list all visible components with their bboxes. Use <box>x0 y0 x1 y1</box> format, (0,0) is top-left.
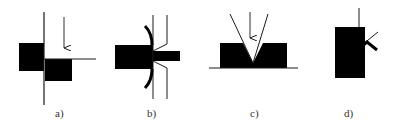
lower-flange <box>145 69 152 88</box>
main-block <box>115 45 153 69</box>
tall-block <box>335 27 365 78</box>
panel-d <box>335 8 378 78</box>
panel-a-label: a) <box>55 107 64 119</box>
panel-b <box>115 15 180 99</box>
notched-block <box>220 43 287 68</box>
right-vertical-line-lower <box>153 61 167 99</box>
panel-c <box>209 12 298 68</box>
panel-d-label: d) <box>344 107 353 119</box>
upper-flange <box>145 26 152 45</box>
panel-c-label: c) <box>250 107 259 119</box>
panel-a <box>19 12 96 105</box>
right-block <box>45 59 72 81</box>
right-vertical-line <box>153 15 167 51</box>
left-block <box>19 43 44 71</box>
panel-b-label: b) <box>147 107 156 119</box>
protruding-bar <box>152 51 180 61</box>
